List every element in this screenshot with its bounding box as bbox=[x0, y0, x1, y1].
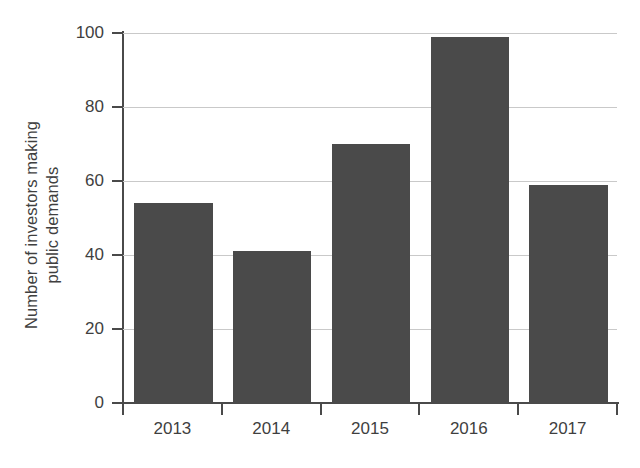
y-axis-title-line-1: Number of investors making bbox=[21, 121, 42, 329]
gridline bbox=[123, 107, 617, 108]
y-axis-tick-label: 40 bbox=[60, 246, 104, 263]
x-axis-tick-label: 2017 bbox=[518, 419, 617, 439]
bar bbox=[233, 251, 312, 403]
plot-area bbox=[123, 33, 617, 403]
y-axis-tick-label: 0 bbox=[60, 394, 104, 411]
y-axis-tick-label: 20 bbox=[60, 320, 104, 337]
y-axis-tick-label: 100 bbox=[60, 24, 104, 41]
x-axis-tick-mark bbox=[122, 404, 124, 415]
x-axis-tick-label: 2013 bbox=[123, 419, 222, 439]
x-axis-tick-mark bbox=[320, 404, 322, 415]
bar bbox=[332, 144, 411, 403]
x-axis-tick-label: 2015 bbox=[321, 419, 420, 439]
gridline bbox=[123, 33, 617, 34]
bar-chart: Number of investors making public demand… bbox=[0, 0, 640, 468]
x-axis-tick-mark bbox=[418, 404, 420, 415]
x-axis-tick-mark bbox=[517, 404, 519, 415]
bar bbox=[431, 37, 510, 403]
y-axis-tick-label: 80 bbox=[60, 98, 104, 115]
x-axis-tick-mark bbox=[221, 404, 223, 415]
y-axis-tick-label: 60 bbox=[60, 172, 104, 189]
x-axis-tick-label: 2014 bbox=[222, 419, 321, 439]
bar bbox=[529, 185, 608, 403]
x-axis-tick-label: 2016 bbox=[419, 419, 518, 439]
bar bbox=[134, 203, 213, 403]
y-axis-tick-labels: 020406080100 bbox=[58, 0, 104, 468]
x-axis-tick-mark bbox=[616, 404, 618, 415]
